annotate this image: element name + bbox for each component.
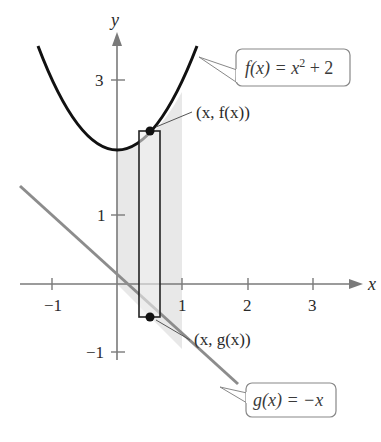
y-tick-label: −1 bbox=[86, 343, 104, 362]
f-callout: f(x) = x2 + 2 bbox=[199, 49, 350, 86]
x-tick-label: −1 bbox=[44, 296, 62, 315]
x-tick-label: 1 bbox=[178, 296, 187, 315]
f-callout-text: f(x) = x2 + 2 bbox=[245, 56, 333, 79]
representative-rectangle bbox=[139, 131, 160, 317]
area-between-curves-figure: x y −1 1 2 3 3 1 −1 bbox=[0, 0, 381, 442]
x-axis-label: x bbox=[367, 274, 376, 294]
x-axis-arrow-icon bbox=[349, 279, 363, 289]
y-axis-label: y bbox=[109, 10, 119, 30]
point-g-label: (x, g(x)) bbox=[194, 330, 251, 349]
g-callout: g(x) = −x bbox=[220, 383, 336, 417]
g-callout-text: g(x) = −x bbox=[253, 390, 323, 411]
x-tick-label: 2 bbox=[243, 296, 252, 315]
y-tick-label: 1 bbox=[97, 206, 106, 225]
point-g bbox=[146, 313, 155, 322]
x-tick-label: 3 bbox=[308, 296, 317, 315]
y-axis-arrow-icon bbox=[112, 32, 122, 46]
point-f-label: (x, f(x)) bbox=[196, 103, 250, 122]
y-tick-label: 3 bbox=[95, 71, 104, 90]
point-f bbox=[146, 127, 155, 136]
plot-canvas: x y −1 1 2 3 3 1 −1 bbox=[0, 0, 381, 442]
